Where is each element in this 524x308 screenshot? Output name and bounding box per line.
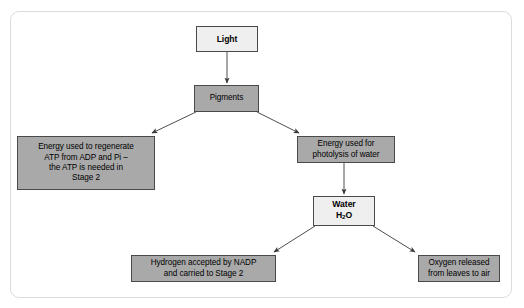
node-light-label: Light	[200, 34, 254, 44]
node-energy-photolysis[interactable]: Energy used for photolysis of water	[297, 136, 395, 163]
node-water[interactable]: Water H2O	[313, 196, 375, 226]
node-water-label: Water H2O	[317, 199, 371, 222]
node-hydrogen-line-1: Hydrogen accepted by NADP	[151, 258, 257, 267]
node-energy-photolysis-line-1: Energy used for	[317, 139, 374, 148]
node-pigments[interactable]: Pigments	[194, 85, 259, 112]
node-energy-photolysis-line-2: photolysis of water	[313, 150, 380, 159]
node-energy-atp-label: Energy used to regenerate ATP from ADP a…	[21, 142, 151, 184]
node-energy-photolysis-label: Energy used for photolysis of water	[301, 139, 391, 160]
node-hydrogen-label: Hydrogen accepted by NADP and carried to…	[135, 258, 272, 279]
node-oxygen[interactable]: Oxygen released from leaves to air	[418, 255, 500, 282]
node-oxygen-line-2: from leaves to air	[428, 269, 490, 278]
node-water-formula: H2O	[336, 210, 352, 220]
node-pigments-label: Pigments	[198, 93, 255, 103]
node-energy-atp-line-4: Stage 2	[72, 173, 100, 182]
node-oxygen-line-1: Oxygen released	[428, 258, 489, 267]
node-energy-atp-line-3: the ATP is needed in	[49, 163, 123, 172]
node-hydrogen-line-2: and carried to Stage 2	[164, 269, 243, 278]
diagram-screen: Light Pigments Energy used to regenerate…	[0, 0, 524, 308]
node-energy-atp-line-1: Energy used to regenerate	[38, 142, 134, 151]
clipped-header-text	[0, 0, 524, 8]
node-oxygen-label: Oxygen released from leaves to air	[422, 258, 496, 279]
node-hydrogen[interactable]: Hydrogen accepted by NADP and carried to…	[131, 255, 276, 282]
node-water-line-1: Water	[332, 199, 355, 209]
node-energy-atp-line-2: ATP from ADP and Pi –	[44, 153, 128, 162]
node-energy-atp[interactable]: Energy used to regenerate ATP from ADP a…	[17, 136, 155, 190]
node-water-formula-o: O	[345, 210, 352, 220]
node-light[interactable]: Light	[196, 26, 258, 52]
